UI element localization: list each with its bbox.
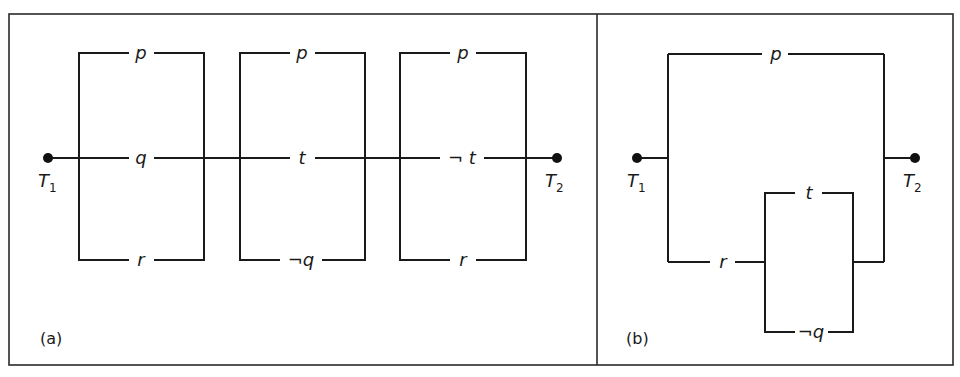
switch-label: p — [456, 42, 468, 63]
panel-caption: (b) — [626, 329, 649, 348]
switch-label: ¬q — [288, 249, 315, 270]
switch-label: r — [459, 249, 468, 270]
terminal-t1-dot-icon — [43, 153, 53, 163]
terminal-t1-dot-icon — [632, 153, 642, 163]
switch-label: r — [719, 251, 728, 272]
terminal-t2-label: T2 — [545, 170, 564, 195]
panel-caption: (a) — [40, 329, 62, 348]
switch-label: t — [805, 182, 813, 203]
switch-label: p — [769, 43, 781, 64]
terminal-t2-dot-icon — [910, 153, 920, 163]
panel-b: p r t ¬q T1 T2 (b) — [626, 43, 922, 348]
terminal-t2-label: T2 — [903, 170, 922, 195]
switch-label: q — [135, 147, 146, 168]
switch-label: p — [295, 42, 307, 63]
terminal-t2-dot-icon — [552, 153, 562, 163]
switching-circuit-figure: p q r p t ¬q p ¬ t r T1 T2 (a) — [0, 0, 960, 377]
terminal-t1-label: T1 — [38, 170, 57, 195]
switch-label: t — [298, 147, 306, 168]
switch-label: ¬ t — [448, 147, 477, 168]
panel-a: p q r p t ¬q p ¬ t r T1 T2 (a) — [38, 42, 564, 348]
switch-label: p — [134, 42, 146, 63]
terminal-t1-label: T1 — [627, 170, 646, 195]
switch-label: r — [137, 249, 146, 270]
switch-label: ¬q — [798, 321, 825, 342]
